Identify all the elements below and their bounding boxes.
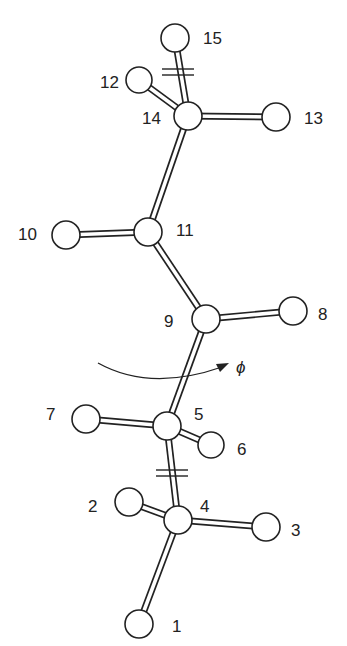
atom-label-6: 6 <box>237 440 246 459</box>
atom-label-8: 8 <box>318 305 327 324</box>
torsion-angle-label: ϕ <box>236 358 245 377</box>
atom-9 <box>192 305 220 333</box>
atom-4 <box>164 506 192 534</box>
atom-8 <box>279 297 307 325</box>
atom-10 <box>52 221 80 249</box>
atom-14 <box>174 102 202 130</box>
atom-7 <box>72 405 100 433</box>
atom-15 <box>161 24 189 52</box>
atom-label-4: 4 <box>200 497 209 516</box>
bond-9-11 <box>148 232 206 319</box>
atom-label-3: 3 <box>291 521 300 540</box>
atom-5 <box>153 412 181 440</box>
bond-11-14 <box>148 116 188 232</box>
atom-label-14: 14 <box>142 109 161 128</box>
bond-1-4 <box>139 520 178 624</box>
atom-label-15: 15 <box>203 29 222 48</box>
atom-11 <box>134 218 162 246</box>
atom-label-10: 10 <box>18 225 37 244</box>
arrowhead-icon <box>216 363 229 372</box>
atom-2 <box>115 488 143 516</box>
atom-1 <box>125 610 153 638</box>
atom-label-13: 13 <box>304 109 323 128</box>
atom-label-2: 2 <box>88 497 97 516</box>
torsion-rotation-arrow: ϕ <box>98 358 245 379</box>
atom-label-5: 5 <box>194 405 203 424</box>
atom-3 <box>252 513 280 541</box>
atom-13 <box>262 103 290 131</box>
atom-12 <box>126 67 152 93</box>
atom-label-7: 7 <box>46 405 55 424</box>
atom-label-11: 11 <box>176 221 194 240</box>
atom-label-9: 9 <box>164 312 173 331</box>
atom-label-12: 12 <box>100 73 119 92</box>
molecule-diagram: ϕ 123456789101112131415 <box>0 0 347 646</box>
atoms-layer <box>52 24 307 638</box>
atom-6 <box>198 432 224 458</box>
atom-label-1: 1 <box>172 617 181 636</box>
